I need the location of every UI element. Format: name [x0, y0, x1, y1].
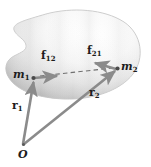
point-mass2	[115, 66, 119, 70]
label-vector-f12: f12	[41, 50, 56, 62]
figure-canvas: m1 m2 O r1 r2 f12 f21	[0, 0, 151, 167]
label-vector-r2: r2	[89, 87, 100, 99]
label-mass2: m2	[121, 61, 138, 73]
label-vector-r1: r1	[12, 100, 23, 112]
point-origin	[22, 143, 25, 146]
rigid-body-blob	[6, 10, 140, 99]
label-mass1: m1	[13, 69, 30, 81]
point-mass1	[31, 76, 35, 80]
figure-svg	[0, 0, 151, 167]
label-vector-f21: f21	[87, 45, 102, 57]
label-origin: O	[18, 149, 28, 160]
